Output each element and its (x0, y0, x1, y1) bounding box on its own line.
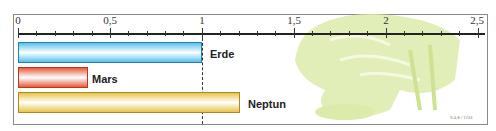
credit-text: S.&.E / 1744 (450, 115, 472, 120)
axis-tick (367, 31, 368, 36)
axis-tick (128, 31, 129, 36)
axis-tick (257, 31, 258, 36)
tick-label-2-5: 2,5 (470, 14, 484, 26)
axis-tick (386, 28, 387, 38)
bar-neptun (18, 92, 240, 113)
axis-tick (441, 31, 442, 36)
tick-label-1-5: 1,5 (287, 14, 301, 26)
axis-tick (239, 31, 240, 36)
bar-label-neptun: Neptun (248, 98, 286, 110)
axis-tick (459, 31, 460, 36)
tick-label-0: 0 (15, 14, 21, 26)
bar-mars (18, 67, 88, 88)
axis-tick (92, 31, 93, 36)
bar-erde (18, 42, 202, 63)
tick-label-1: 1 (199, 14, 205, 26)
axis-tick (330, 31, 331, 36)
axis-tick (165, 31, 166, 36)
axis-tick (110, 28, 111, 38)
axis-tick (478, 28, 479, 38)
tick-label-2: 2 (383, 14, 389, 26)
axis-tick (73, 31, 74, 36)
axis-tick (422, 31, 423, 36)
x-axis (18, 33, 485, 35)
axis-tick (18, 28, 19, 38)
bar-label-erde: Erde (210, 48, 234, 60)
axis-tick (275, 31, 276, 36)
decorative-illustration-icon (270, 10, 465, 128)
axis-tick (404, 31, 405, 36)
axis-tick (349, 31, 350, 36)
axis-tick (312, 31, 313, 36)
axis-tick (202, 28, 203, 38)
axis-tick (147, 31, 148, 36)
axis-tick (183, 31, 184, 36)
axis-tick (294, 28, 295, 38)
tick-label-0-5: 0,5 (103, 14, 117, 26)
axis-tick (55, 31, 56, 36)
axis-tick (36, 31, 37, 36)
bar-label-mars: Mars (92, 73, 118, 85)
axis-tick (220, 31, 221, 36)
